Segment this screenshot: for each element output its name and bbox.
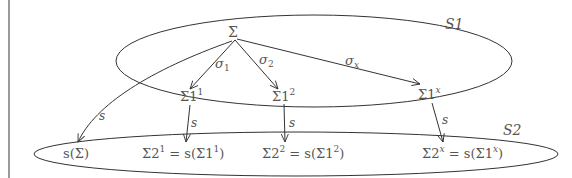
- edge-label-sigma-1: σ1: [215, 56, 230, 73]
- edge-label-s-left: s: [99, 109, 105, 123]
- node-sigma1-x: Σ1x: [418, 85, 441, 102]
- edge-sigma-to-s-sigma: [78, 41, 232, 142]
- edge-label-sigma-2: σ2: [259, 52, 274, 69]
- edge-sigma1-2-to-sigma2-2: [284, 104, 285, 142]
- node-sigma: Σ: [228, 24, 238, 40]
- node-s-sigma: s(Σ): [63, 146, 89, 161]
- edge-label-s-2: s: [289, 116, 295, 130]
- node-sigma1-2: Σ12: [272, 87, 295, 104]
- node-sigma1-1: Σ11: [180, 87, 203, 104]
- edge-sigma1-1-to-sigma2-1: [186, 105, 190, 142]
- set-s1-label: S1: [445, 16, 464, 32]
- node-sigma2-x: Σ2x = s(Σ1x): [422, 144, 503, 161]
- node-sigma2-1: Σ21 = s(Σ11): [142, 144, 224, 161]
- edge-label-s-x: s: [442, 113, 448, 127]
- diagram-canvas: S1 S2 σ1 σ2 σx s s s s Σ Σ11 Σ12 Σ1x s(Σ…: [0, 0, 572, 178]
- diagram-svg: S1 S2 σ1 σ2 σx s s s s Σ Σ11 Σ12 Σ1x s(Σ…: [0, 0, 572, 178]
- set-s2-label: S2: [503, 122, 522, 138]
- edge-label-sigma-x: σx: [345, 53, 359, 70]
- edge-label-s-1: s: [191, 116, 197, 130]
- node-sigma2-2: Σ22 = s(Σ12): [262, 144, 344, 161]
